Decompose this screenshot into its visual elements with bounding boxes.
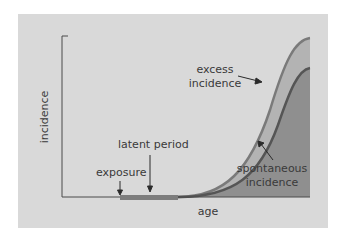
y-axis-label: incidence [38, 90, 51, 143]
x-axis-label: age [198, 205, 219, 218]
excess-label-line1: excess [196, 63, 233, 76]
excess-label-line2: incidence [189, 77, 242, 90]
y-axis [62, 36, 68, 197]
latent-period-bar [120, 195, 178, 200]
spontaneous-label-line2: incidence [246, 176, 299, 189]
exposure-arrowhead [118, 190, 123, 195]
exposure-label: exposure [96, 166, 147, 179]
spontaneous-label-line1: spontaneous [237, 162, 308, 175]
incidence-diagram: incidence age exposure latent period exc… [0, 0, 344, 234]
latent-arrowhead [148, 186, 153, 192]
latent-period-label: latent period [118, 138, 189, 151]
excess-arrowhead [255, 78, 262, 84]
